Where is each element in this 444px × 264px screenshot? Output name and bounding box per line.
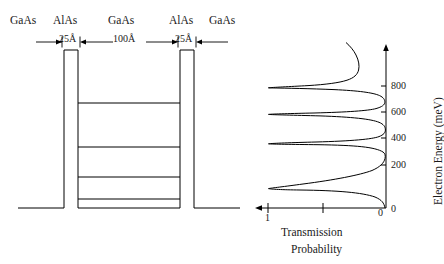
dimension-leaders <box>36 37 228 48</box>
energy-axis <box>381 44 389 208</box>
transmission-probability-curve <box>268 43 385 209</box>
band-profile-double-barrier <box>18 50 240 208</box>
quantum-well-energy-levels <box>78 103 180 199</box>
transmission-axis <box>255 203 386 213</box>
